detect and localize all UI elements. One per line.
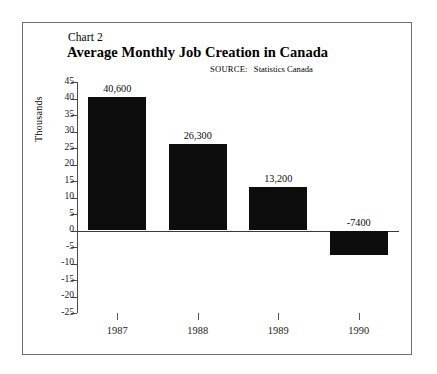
y-tick-label: 35 <box>64 108 74 119</box>
y-tick-label: 0 <box>69 223 74 234</box>
x-tick-label: 1988 <box>158 325 238 336</box>
y-tick-label: 15 <box>64 174 74 185</box>
y-tick-label: 25 <box>64 141 74 152</box>
x-tick-mark <box>198 313 199 320</box>
chart-number-label: Chart 2 <box>68 31 103 43</box>
x-tick-mark <box>117 313 118 320</box>
y-axis-title: Thousands <box>33 96 44 142</box>
source-value: Statistics Canada <box>254 64 313 74</box>
source-note: SOURCE: Statistics Canada <box>210 64 313 74</box>
bar <box>88 97 146 231</box>
y-tick-label: 20 <box>64 157 74 168</box>
source-prefix: SOURCE: <box>210 64 248 74</box>
y-tick-label: -5 <box>66 240 74 251</box>
x-tick-label: 1989 <box>238 325 318 336</box>
y-tick-label: -25 <box>61 306 74 317</box>
y-tick-label: -15 <box>61 273 74 284</box>
bar-value-label: -7400 <box>319 217 399 228</box>
x-tick-label: 1990 <box>319 325 399 336</box>
y-tick-label: 45 <box>64 75 74 86</box>
plot-area: 454035302520151050-5-10-15-20-25 40,6002… <box>77 82 399 313</box>
x-tick-mark <box>359 313 360 320</box>
chart-title: Average Monthly Job Creation in Canada <box>67 44 328 61</box>
y-tick-label: 10 <box>64 190 74 201</box>
bar-value-label: 26,300 <box>158 130 238 141</box>
y-tick-label: 5 <box>69 207 74 218</box>
y-tick-label: -20 <box>61 289 74 300</box>
bar <box>169 144 227 231</box>
bar-value-label: 13,200 <box>238 173 318 184</box>
x-tick-label: 1987 <box>77 325 157 336</box>
y-tick-label: 30 <box>64 124 74 135</box>
y-axis-line <box>77 82 78 313</box>
y-tick-label: -10 <box>61 256 74 267</box>
bar <box>249 187 307 231</box>
chart-figure: Chart 2 Average Monthly Job Creation in … <box>0 0 437 374</box>
bar-value-label: 40,600 <box>77 83 157 94</box>
x-tick-mark <box>278 313 279 320</box>
bar <box>330 231 388 255</box>
y-tick-label: 40 <box>64 91 74 102</box>
